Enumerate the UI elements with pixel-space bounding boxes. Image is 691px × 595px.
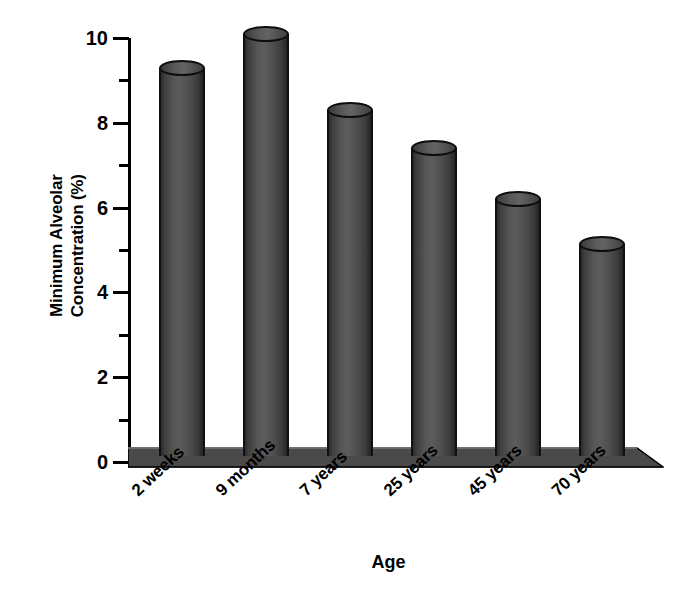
y-tick-label: 6: [36, 198, 108, 218]
bar-body: [411, 148, 457, 456]
bar-9-months: [243, 34, 289, 456]
y-axis-ticks: 0246810: [0, 0, 108, 595]
y-tick-minor: [119, 249, 129, 252]
bar-25-years: [411, 148, 457, 456]
y-tick-minor: [119, 79, 129, 82]
bar-7-years: [327, 110, 373, 456]
bar-body: [327, 110, 373, 456]
y-tick-minor: [119, 419, 129, 422]
y-tick-major: [113, 291, 129, 294]
y-tick-minor: [119, 164, 129, 167]
x-axis-title: Age: [0, 552, 691, 573]
bar-top-ellipse: [243, 26, 289, 42]
bar-top-ellipse: [495, 191, 541, 207]
bar-body: [579, 244, 625, 456]
y-tick-label: 0: [36, 452, 108, 472]
y-tick-minor: [119, 334, 129, 337]
y-tick-major: [113, 122, 129, 125]
y-tick-label: 8: [36, 113, 108, 133]
y-tick-major: [113, 461, 129, 464]
bar-top-ellipse: [579, 236, 625, 252]
y-tick-label: 4: [36, 282, 108, 302]
y-tick-label: 10: [36, 28, 108, 48]
bar-body: [159, 68, 205, 456]
bar-45-years: [495, 199, 541, 456]
bar-70-years: [579, 244, 625, 456]
bar-body: [243, 34, 289, 456]
y-tick-label: 2: [36, 367, 108, 387]
bar-2-weeks: [159, 68, 205, 456]
y-tick-major: [113, 376, 129, 379]
bar-top-ellipse: [159, 60, 205, 76]
y-tick-major: [113, 37, 129, 40]
y-tick-major: [113, 207, 129, 210]
bar-top-ellipse: [327, 102, 373, 118]
bar-body: [495, 199, 541, 456]
chart-container: Minimum Alveolar Concentration (%) 02468…: [0, 0, 691, 595]
